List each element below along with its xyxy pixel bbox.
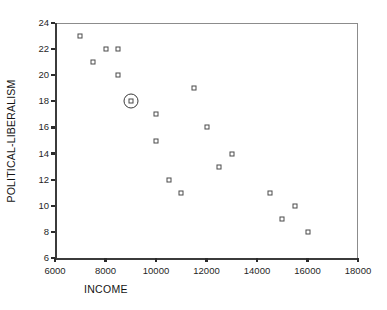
y-tick-label: 22 <box>38 44 49 54</box>
x-tick-mark <box>54 258 56 262</box>
y-axis-title-text: POLITICAL-LIBERALISM <box>5 79 17 202</box>
data-point <box>154 112 159 117</box>
data-point <box>267 190 272 195</box>
x-tick-mark <box>306 258 308 262</box>
x-tick-label: 10000 <box>143 266 169 276</box>
scatter-plot-figure: POLITICAL-LIBERALISM 681012141618202224 … <box>0 0 387 310</box>
x-tick-mark <box>104 258 106 262</box>
x-tick-label: 18000 <box>345 266 371 276</box>
y-tick-mark <box>51 231 55 233</box>
data-point <box>229 151 234 156</box>
x-tick-label: 16000 <box>294 266 320 276</box>
x-tick-mark <box>256 258 258 262</box>
y-tick-label: 8 <box>44 227 49 237</box>
x-tick-label: 8000 <box>95 266 116 276</box>
data-point <box>292 203 297 208</box>
data-point <box>204 125 209 130</box>
x-tick-mark <box>155 258 157 262</box>
y-tick-label: 24 <box>38 18 49 28</box>
data-point <box>305 229 310 234</box>
data-point <box>154 138 159 143</box>
y-tick-label: 16 <box>38 123 49 133</box>
data-point <box>116 47 121 52</box>
x-tick-mark <box>205 258 207 262</box>
data-point-highlighted <box>128 99 133 104</box>
x-tick-mark <box>357 258 359 262</box>
data-point <box>103 47 108 52</box>
data-point <box>166 177 171 182</box>
y-tick-mark <box>51 74 55 76</box>
y-tick-mark <box>51 48 55 50</box>
y-tick-mark <box>51 152 55 154</box>
y-tick-label: 18 <box>38 97 49 107</box>
data-point <box>78 34 83 39</box>
y-tick-label: 14 <box>38 149 49 159</box>
y-axis-line <box>55 23 57 258</box>
y-tick-label: 20 <box>38 70 49 80</box>
y-tick-mark <box>51 205 55 207</box>
y-tick-label: 6 <box>44 253 49 263</box>
y-tick-mark <box>51 22 55 24</box>
data-point <box>217 164 222 169</box>
data-point <box>191 86 196 91</box>
y-tick-mark <box>51 126 55 128</box>
x-tick-label: 14000 <box>244 266 270 276</box>
plot-area: 681012141618202224 600080001000012000140… <box>55 23 358 258</box>
data-point <box>90 60 95 65</box>
data-point <box>280 216 285 221</box>
x-axis-title: INCOME <box>84 283 128 295</box>
y-tick-mark <box>51 100 55 102</box>
y-tick-label: 12 <box>38 175 49 185</box>
plot-frame-right <box>357 23 358 258</box>
y-tick-label: 10 <box>38 201 49 211</box>
x-tick-label: 12000 <box>193 266 219 276</box>
data-point <box>116 73 121 78</box>
x-tick-label: 6000 <box>44 266 65 276</box>
plot-frame-top <box>55 23 358 24</box>
y-tick-mark <box>51 179 55 181</box>
y-axis-title: POLITICAL-LIBERALISM <box>2 23 20 258</box>
data-point <box>179 190 184 195</box>
